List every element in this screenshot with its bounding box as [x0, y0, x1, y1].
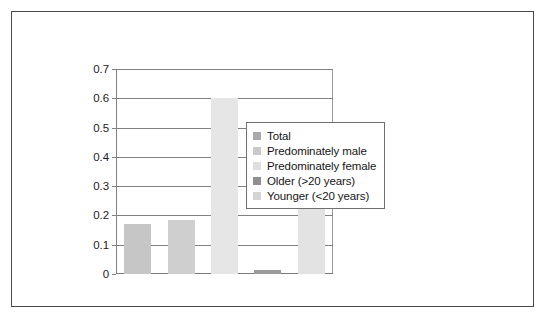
legend-swatch-icon	[253, 132, 261, 140]
legend-item: Older (>20 years)	[253, 173, 376, 188]
y-tick-mark	[112, 245, 116, 246]
figure-frame: 0.70.60.50.40.30.20.10 TotalPredominatel…	[11, 11, 534, 307]
legend-label: Predominately female	[267, 160, 376, 172]
y-tick-label: 0.7	[93, 63, 109, 75]
y-tick-mark	[112, 69, 116, 70]
y-tick-mark	[112, 157, 116, 158]
y-tick-label: 0.6	[93, 92, 109, 104]
y-tick-label: 0.3	[93, 180, 109, 192]
y-tick-label: 0.2	[93, 209, 109, 221]
y-axis-line	[116, 69, 117, 274]
legend-item: Predominately male	[253, 143, 376, 158]
legend-label: Total	[267, 130, 291, 142]
y-tick-mark	[112, 274, 116, 275]
y-tick-label: 0.1	[93, 239, 109, 251]
y-tick-label: 0	[103, 268, 109, 280]
y-tick-mark	[112, 128, 116, 129]
y-tick-label: 0.5	[93, 122, 109, 134]
legend-item: Predominately female	[253, 158, 376, 173]
chart-legend: TotalPredominately malePredominately fem…	[246, 122, 385, 209]
legend-item: Total	[253, 128, 376, 143]
bar	[124, 224, 151, 274]
bar	[211, 98, 238, 274]
gridline	[116, 69, 333, 70]
legend-label: Older (>20 years)	[267, 175, 355, 187]
legend-swatch-icon	[253, 162, 261, 170]
legend-swatch-icon	[253, 147, 261, 155]
legend-label: Younger (<20 years)	[267, 190, 369, 202]
bar	[254, 270, 281, 274]
legend-label: Predominately male	[267, 145, 367, 157]
bar	[168, 220, 195, 274]
y-tick-mark	[112, 98, 116, 99]
legend-swatch-icon	[253, 192, 261, 200]
legend-swatch-icon	[253, 177, 261, 185]
bar-chart: 0.70.60.50.40.30.20.10 TotalPredominatel…	[12, 12, 535, 308]
y-tick-mark	[112, 186, 116, 187]
legend-item: Younger (<20 years)	[253, 188, 376, 203]
y-tick-mark	[112, 215, 116, 216]
y-tick-label: 0.4	[93, 151, 109, 163]
